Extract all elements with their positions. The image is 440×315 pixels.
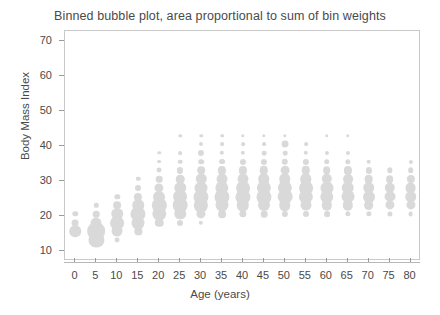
bubble-marker (176, 175, 184, 183)
bubble-marker (198, 150, 204, 156)
x-axis-label: Age (years) (0, 288, 440, 300)
bubble-marker (134, 192, 142, 200)
bubble-marker (178, 159, 183, 164)
bubble-marker (324, 159, 330, 165)
bubble-marker (219, 159, 225, 165)
bubble-marker (366, 211, 371, 216)
bubble-marker (220, 151, 224, 155)
bubble-marker (238, 174, 249, 185)
bubble-marker (177, 167, 183, 173)
y-tick-mark (59, 250, 64, 251)
x-tick-label: 80 (395, 269, 425, 281)
bubble-marker (199, 134, 202, 137)
bubble-marker (324, 211, 330, 217)
bubble-marker (91, 217, 102, 228)
bubble-marker (178, 134, 181, 137)
y-tick-label: 50 (22, 104, 52, 116)
bubble-marker (240, 159, 246, 165)
y-tick-mark (59, 110, 64, 111)
bubble-marker (343, 174, 353, 184)
bubble-marker (346, 134, 349, 137)
chart-title: Binned bubble plot, area proportional to… (0, 9, 440, 23)
y-tick-mark (59, 145, 64, 146)
bubble-marker (241, 142, 245, 146)
bubble-marker (199, 220, 203, 224)
bubble-marker (366, 167, 372, 173)
bubble-marker (283, 151, 288, 156)
bubble-marker (281, 166, 290, 175)
bubble-marker (220, 134, 223, 137)
bubble-marker (72, 219, 79, 226)
y-tick-label: 10 (22, 244, 52, 256)
bubble-marker (157, 160, 161, 164)
bubble-marker (262, 134, 265, 137)
bubble-marker (197, 167, 205, 175)
bubble-marker (303, 211, 309, 217)
bubble-marker (384, 191, 395, 202)
y-tick-label: 40 (22, 139, 52, 151)
bubble-marker (304, 142, 308, 146)
bubble-marker (387, 168, 392, 173)
y-tick-label: 60 (22, 69, 52, 81)
bubble-marker (153, 191, 165, 203)
bubble-marker (70, 226, 81, 237)
bubble-marker (364, 175, 373, 184)
bubble-marker (239, 166, 247, 174)
bubble-marker (408, 212, 413, 217)
bubble-marker (135, 185, 141, 191)
bubble-marker (302, 166, 310, 174)
bubble-marker (73, 211, 78, 216)
bubble-marker (281, 141, 288, 148)
bubble-marker (386, 175, 394, 183)
bubble-marker (346, 151, 350, 155)
bubble-marker (303, 159, 309, 165)
bubble-marker (387, 211, 392, 216)
bubble-marker (344, 166, 352, 174)
bubble-marker (136, 177, 140, 181)
y-tick-mark (59, 40, 64, 41)
bubble-marker (113, 201, 121, 209)
y-tick-mark (59, 75, 64, 76)
bubble-marker (261, 211, 268, 218)
bubble-marker (282, 211, 288, 217)
bubble-marker (366, 159, 371, 164)
bubble-marker (304, 151, 308, 155)
bubble-marker (199, 142, 203, 146)
bubble-chart-figure: Binned bubble plot, area proportional to… (0, 0, 440, 315)
bubble-marker (177, 220, 183, 226)
bubble-marker (408, 168, 414, 174)
bubble-marker (239, 210, 246, 217)
bubble-marker (261, 159, 267, 165)
y-tick-mark (59, 180, 64, 181)
bubble-marker (385, 201, 394, 210)
y-tick-label: 70 (22, 34, 52, 46)
plot-area (64, 30, 420, 260)
bubble-marker (115, 194, 120, 199)
x-axis-line (64, 262, 420, 263)
bubble-marker (93, 211, 100, 218)
bubble-marker (115, 238, 120, 243)
bubble-marker (218, 166, 226, 174)
bubble-marker (325, 151, 329, 155)
bubble-marker (241, 134, 244, 137)
bubble-marker (217, 174, 228, 185)
bubble-marker (158, 151, 161, 154)
bubble-marker (241, 151, 245, 155)
bubble-marker (262, 151, 267, 156)
bubble-marker (220, 142, 224, 146)
y-tick-label: 30 (22, 174, 52, 186)
bubble-marker (323, 167, 331, 175)
bubble-marker (198, 159, 204, 165)
bubble-marker (260, 166, 268, 174)
bubble-marker (283, 134, 286, 137)
bubble-marker (405, 182, 416, 193)
bubble-marker (282, 158, 288, 164)
bubble-marker (406, 175, 414, 183)
bubble-marker (406, 201, 415, 210)
bubble-marker (325, 134, 328, 137)
bubble-marker (156, 176, 163, 183)
bubble-marker (178, 151, 182, 155)
bubble-marker (408, 160, 412, 164)
bubble-marker (262, 142, 266, 146)
bubble-marker (345, 159, 350, 164)
